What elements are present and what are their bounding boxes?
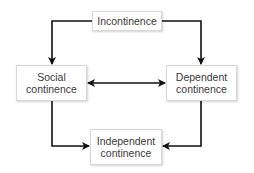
- node-social-label-line1: Social: [37, 71, 66, 83]
- arrow-social-to-independent: [52, 101, 89, 146]
- node-independent-label-line2: continence: [101, 147, 152, 159]
- node-dependent-label-line1: Dependent: [176, 71, 227, 83]
- node-independent-label-line1: Independent: [97, 135, 155, 147]
- node-incontinence: Incontinence: [92, 11, 162, 31]
- node-incontinence-label: Incontinence: [97, 15, 157, 27]
- node-social-label-line2: continence: [26, 83, 77, 95]
- node-social-continence: Social continence: [16, 65, 87, 101]
- node-dependent-continence: Dependent continence: [166, 65, 237, 101]
- arrow-dependent-to-independent: [163, 101, 201, 146]
- arrow-incontinence-to-dependent: [162, 21, 201, 64]
- node-dependent-label-line2: continence: [176, 83, 227, 95]
- node-independent-continence: Independent continence: [90, 129, 162, 165]
- arrow-incontinence-to-social: [52, 21, 92, 64]
